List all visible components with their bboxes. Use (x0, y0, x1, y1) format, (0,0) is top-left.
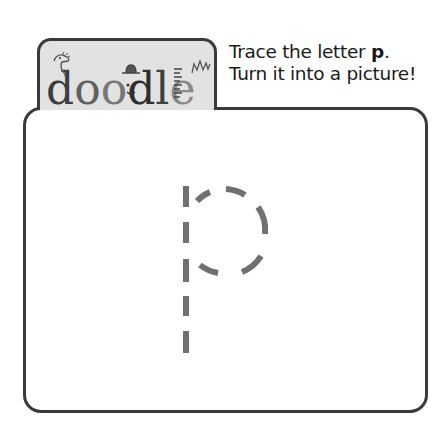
dashed-letter-p-trace (0, 0, 445, 427)
